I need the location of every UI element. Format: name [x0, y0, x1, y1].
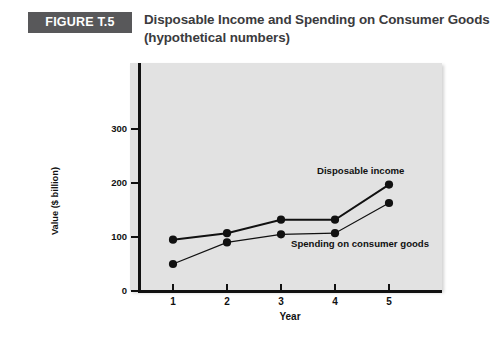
- data-point-marker: [223, 229, 231, 237]
- y-axis-tick-label: 300: [93, 123, 127, 134]
- figure-container: FIGURE T.5 Disposable Income and Spendin…: [0, 0, 499, 341]
- y-axis-tick: [131, 290, 139, 292]
- annotation-disposable-income: Disposable income: [317, 165, 404, 176]
- x-axis-tick: [226, 284, 228, 291]
- x-axis-tick: [280, 284, 282, 291]
- x-axis-tick-label: 2: [217, 296, 237, 307]
- x-axis-tick: [388, 284, 390, 291]
- x-axis-tick-label: 3: [271, 296, 291, 307]
- x-axis-tick-label: 1: [163, 296, 183, 307]
- chart-plot-area: Value ($ billion) Year Disposable income…: [0, 0, 499, 341]
- data-point-marker: [223, 238, 231, 246]
- annotation-spending: Spending on consumer goods: [291, 238, 429, 249]
- data-point-marker: [385, 181, 393, 189]
- data-point-marker: [385, 199, 393, 207]
- y-axis-tick-label: 200: [93, 177, 127, 188]
- data-point-marker: [169, 260, 177, 268]
- data-point-marker: [331, 216, 339, 224]
- x-axis-tick-label: 5: [379, 296, 399, 307]
- data-point-marker: [331, 229, 339, 237]
- series-layer: [0, 0, 499, 341]
- y-axis-tick: [131, 236, 139, 238]
- x-axis-tick: [334, 284, 336, 291]
- y-axis-tick-label: 0: [93, 285, 127, 296]
- data-point-marker: [277, 216, 285, 224]
- x-axis-tick: [172, 284, 174, 291]
- x-axis-tick-label: 4: [325, 296, 345, 307]
- data-point-marker: [277, 230, 285, 238]
- y-axis-tick: [131, 182, 139, 184]
- y-axis-tick: [131, 128, 139, 130]
- y-axis-tick-label: 100: [93, 231, 127, 242]
- data-point-marker: [169, 236, 177, 244]
